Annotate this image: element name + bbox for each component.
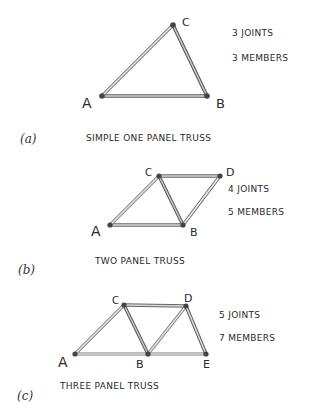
members-c	[75, 305, 206, 354]
node-label-C: C	[182, 16, 190, 29]
joint-a-C	[170, 22, 176, 28]
joint-c-E	[203, 351, 208, 356]
node-label-B: B	[216, 96, 225, 111]
joint-b-D	[217, 173, 222, 178]
members-count-c: 7 MEMBERS	[219, 333, 275, 343]
joint-a-B	[204, 93, 210, 99]
joints-b	[107, 173, 222, 227]
joints-a	[99, 22, 210, 99]
figure-a-simple-one-panel-truss: A B C 3 JOINTS 3 MEMBERS (a) SIMPLE ONE …	[20, 16, 288, 146]
figure-label-b: (b)	[18, 263, 35, 277]
members-b	[110, 176, 220, 225]
joints-count-a: 3 JOINTS	[232, 28, 273, 38]
joint-c-C	[121, 302, 126, 307]
members-a	[102, 25, 207, 96]
truss-diagram: A B C 3 JOINTS 3 MEMBERS (a) SIMPLE ONE …	[0, 0, 317, 413]
joint-c-A	[72, 351, 77, 356]
figure-title-a: SIMPLE ONE PANEL TRUSS	[86, 133, 211, 143]
node-label-C: C	[112, 295, 119, 306]
figure-b-two-panel-truss: A B C D 4 JOINTS 5 MEMBERS TWO PANEL TRU…	[18, 166, 284, 277]
node-label-C: C	[145, 167, 152, 178]
figure-c-three-panel-truss: A B C D E 5 JOINTS 7 MEMBERS THREE PANEL…	[17, 292, 275, 403]
node-label-A: A	[58, 354, 68, 370]
joints-count-b: 4 JOINTS	[228, 184, 269, 194]
node-label-A: A	[91, 223, 101, 239]
node-label-B: B	[136, 358, 144, 371]
joints-count-c: 5 JOINTS	[219, 310, 260, 320]
figure-label-a: (a)	[20, 132, 37, 146]
node-label-D: D	[226, 166, 235, 179]
members-count-a: 3 MEMBERS	[232, 53, 288, 63]
members-count-b: 5 MEMBERS	[228, 207, 284, 217]
joint-a-A	[99, 93, 105, 99]
node-label-D: D	[184, 292, 193, 305]
joint-b-B	[180, 222, 185, 227]
node-label-A: A	[82, 95, 92, 111]
joint-b-C	[156, 173, 161, 178]
node-label-B: B	[190, 226, 198, 239]
figure-title-b: TWO PANEL TRUSS	[94, 256, 185, 266]
node-label-E: E	[203, 358, 210, 371]
joint-c-B	[145, 351, 150, 356]
figure-title-c: THREE PANEL TRUSS	[59, 381, 159, 391]
joint-b-A	[107, 222, 112, 227]
figure-label-c: (c)	[17, 389, 33, 403]
